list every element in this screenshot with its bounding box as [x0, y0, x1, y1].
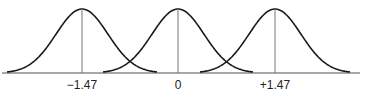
normal-curves-chart: [0, 0, 372, 98]
tick-label-center: 0: [175, 78, 182, 92]
tick-label-right: +1.47: [260, 78, 290, 92]
tick-label-left: −1.47: [67, 78, 97, 92]
